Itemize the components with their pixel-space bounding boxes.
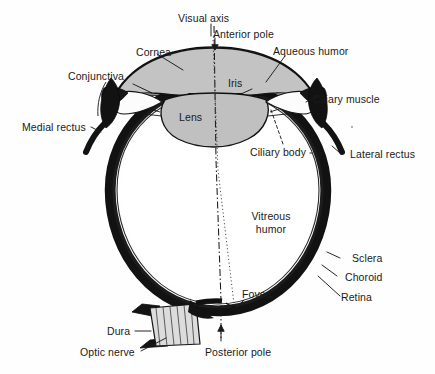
label-choroid: Choroid <box>345 271 382 283</box>
label-fovea: Fovea <box>242 288 272 300</box>
lateral-rectus-muscle <box>324 124 342 152</box>
leader-retina <box>318 276 340 296</box>
label-vitreous-humor: Vitreous humor <box>240 210 302 236</box>
arrowhead-posterior-pole <box>218 325 224 331</box>
label-iris: Iris <box>228 77 242 89</box>
label-anterior-pole: Anterior pole <box>213 28 274 40</box>
eye-anatomy-figure: Visual axis Anterior pole Cornea Aqueous… <box>0 0 435 374</box>
eye-diagram-svg <box>0 0 435 374</box>
label-retina: Retina <box>341 291 372 303</box>
label-conjunctiva: Conjunctiva <box>68 70 124 82</box>
label-aqueous-humor: Aqueous humor <box>273 45 348 57</box>
leader-choroid <box>322 265 337 276</box>
label-ciliary-body: Ciliary body <box>250 146 306 158</box>
scan-speck <box>351 126 353 128</box>
leader-sclera <box>327 252 340 258</box>
medial-rectus-muscle <box>86 124 104 152</box>
label-cornea: Cornea <box>136 46 171 58</box>
label-optic-nerve: Optic nerve <box>80 346 135 358</box>
label-vitreous-humor-line2: humor <box>256 223 286 235</box>
label-dura: Dura <box>107 325 130 337</box>
label-lens: Lens <box>179 111 202 123</box>
label-posterior-pole: Posterior pole <box>205 346 271 358</box>
label-lateral-rectus: Lateral rectus <box>350 148 415 160</box>
label-medial-rectus: Medial rectus <box>22 121 86 133</box>
label-ciliary-muscle: Ciliary muscle <box>313 93 380 105</box>
label-vitreous-humor-line1: Vitreous <box>251 210 290 222</box>
optic-disc-junction <box>196 301 222 303</box>
label-visual-axis: Visual axis <box>178 12 229 24</box>
label-sclera: Sclera <box>352 252 382 264</box>
